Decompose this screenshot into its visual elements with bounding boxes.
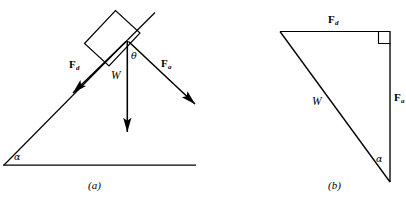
- label-weight-panel-b: W: [312, 96, 322, 108]
- incline-extension-line: [128, 13, 156, 41]
- vector-force-a-arrow: [129, 42, 196, 105]
- caption-panel-a: (a): [88, 180, 101, 191]
- label-angle-alpha-panel-a: α: [14, 152, 20, 162]
- right-angle-marker: [379, 32, 391, 44]
- label-angle-theta-panel-a: θ: [131, 51, 137, 61]
- vector-force-d-arrow: [73, 42, 126, 94]
- label-force-d-panel-a: Fd: [69, 59, 79, 72]
- label-force-a-panel-a: Fa: [161, 58, 171, 71]
- label-force-d-panel-b: Fd: [328, 14, 338, 27]
- triangle-hypotenuse-weight: [280, 32, 390, 183]
- caption-panel-b: (b): [328, 180, 341, 191]
- figure-vector-graphics: [0, 0, 406, 200]
- panel-b-geometry: [280, 32, 391, 183]
- label-force-a-panel-b: Fa: [394, 92, 404, 105]
- label-angle-alpha-panel-b: α: [376, 154, 382, 164]
- physics-figure: Fd W θ Fa α (a) Fd W Fa α (b): [0, 0, 406, 200]
- panel-a-geometry: [3, 11, 196, 166]
- label-weight-panel-a: W: [111, 70, 121, 82]
